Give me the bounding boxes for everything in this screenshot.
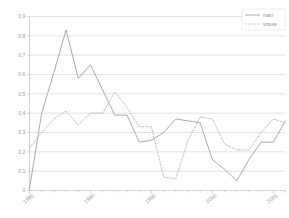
series-group [30, 30, 286, 189]
x-tick-label: 1985 [22, 192, 35, 204]
x-tick-label: 1990 [83, 192, 96, 204]
legend-label-vrouw: vrouw [263, 21, 277, 27]
x-tick-label: 2000 [205, 192, 218, 204]
y-tick-label: 0,5 [18, 91, 25, 97]
y-tick-label: 0 [23, 187, 26, 193]
x-axis-ticks: 19851990199520002005 [22, 191, 286, 205]
series-line-man [30, 30, 286, 189]
y-tick-label: 0,4 [18, 110, 25, 116]
axes [30, 17, 286, 191]
legend-label-man: man [263, 12, 273, 18]
legend: manvrouw [242, 9, 285, 30]
y-tick-label: 0,8 [18, 33, 25, 39]
x-tick-label: 1995 [144, 192, 157, 204]
y-tick-label: 0,7 [18, 52, 25, 58]
y-tick-label: 0,1 [18, 168, 25, 174]
y-tick-label: 0,3 [18, 129, 25, 135]
gridlines [30, 17, 286, 172]
y-tick-label: 0,6 [18, 71, 25, 77]
y-tick-label: 0,9 [18, 13, 25, 19]
y-axis-ticks: 00,10,20,30,40,50,60,70,80,9 [18, 13, 29, 193]
y-tick-label: 0,2 [18, 149, 25, 155]
series-line-vrouw [30, 92, 286, 179]
x-tick-label: 2005 [266, 192, 279, 204]
chart-canvas: 00,10,20,30,40,50,60,70,80,9198519901995… [0, 0, 289, 218]
line-chart: 00,10,20,30,40,50,60,70,80,9198519901995… [0, 0, 289, 218]
